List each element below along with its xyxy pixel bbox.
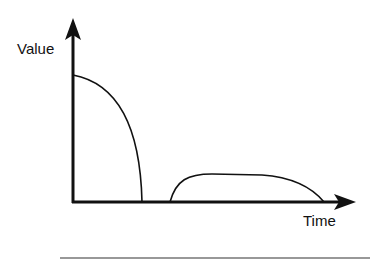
decay-curve — [73, 75, 142, 202]
x-axis — [72, 194, 356, 210]
y-axis-label: Value — [17, 40, 54, 57]
x-axis-label: Time — [303, 212, 336, 229]
y-axis — [65, 18, 81, 203]
plateau-curve — [170, 174, 324, 202]
